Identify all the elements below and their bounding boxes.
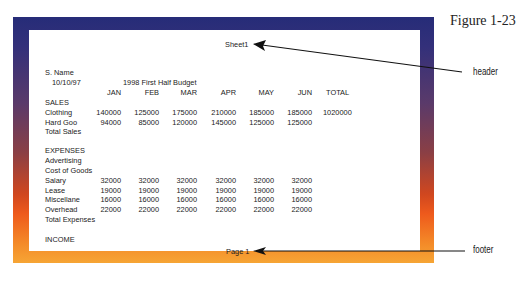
row-label-advertising: Advertising <box>45 156 82 165</box>
column-header-jan: JAN <box>91 88 121 97</box>
header-callout-label: header <box>473 66 498 77</box>
section-sales: SALES <box>45 98 69 107</box>
cell: 175000 <box>162 108 197 117</box>
cell: 19000 <box>239 186 274 195</box>
cell: 22000 <box>124 205 159 214</box>
cell: 19000 <box>201 186 236 195</box>
cell: 120000 <box>162 118 197 127</box>
cell: 32000 <box>86 176 121 185</box>
cell: 210000 <box>201 108 236 117</box>
cell: 94000 <box>86 118 121 127</box>
row-label-hard-goods: Hard Goo <box>45 118 77 127</box>
cell: 185000 <box>277 108 312 117</box>
row-label-cost-of-goods: Cost of Goods <box>45 166 92 175</box>
column-header-mar: MAR <box>167 88 197 97</box>
cell: 16000 <box>239 195 274 204</box>
cell: 22000 <box>239 205 274 214</box>
cell: 16000 <box>86 195 121 204</box>
cell: 16000 <box>201 195 236 204</box>
cell: 125000 <box>277 118 312 127</box>
cell: 32000 <box>201 176 236 185</box>
cell: 32000 <box>124 176 159 185</box>
cell: 185000 <box>239 108 274 117</box>
row-label-clothing: Clothing <box>45 108 72 117</box>
row-label-total-sales: Total Sales <box>45 127 81 136</box>
cell: 22000 <box>277 205 312 214</box>
cell: 16000 <box>162 195 197 204</box>
column-header-total: TOTAL <box>326 88 349 97</box>
report-date: 10/10/97 <box>52 78 81 87</box>
row-label-overhead: Overhead <box>45 205 77 214</box>
row-label-miscellaneous: Miscellane <box>45 195 80 204</box>
cell: 19000 <box>86 186 121 195</box>
cell: 125000 <box>239 118 274 127</box>
header-arrow <box>253 40 462 72</box>
cell: 32000 <box>239 176 274 185</box>
column-header-may: MAY <box>244 88 274 97</box>
author-name: S. Name <box>45 68 74 77</box>
cell: 16000 <box>124 195 159 204</box>
footer-arrow <box>253 247 465 255</box>
row-label-salary: Salary <box>45 176 66 185</box>
cell: 32000 <box>277 176 312 185</box>
cell: 145000 <box>201 118 236 127</box>
cell: 22000 <box>201 205 236 214</box>
row-label-lease: Lease <box>45 186 65 195</box>
cell: 22000 <box>86 205 121 214</box>
column-header-jun: JUN <box>282 88 312 97</box>
cell: 22000 <box>162 205 197 214</box>
cell: 19000 <box>124 186 159 195</box>
section-expenses: EXPENSES <box>45 146 85 155</box>
column-header-feb: FEB <box>129 88 159 97</box>
cell: 140000 <box>86 108 121 117</box>
cell-total: 1020000 <box>323 108 352 117</box>
report-title: 1998 First Half Budget <box>123 78 197 87</box>
cell: 19000 <box>277 186 312 195</box>
cell: 16000 <box>277 195 312 204</box>
cell: 19000 <box>162 186 197 195</box>
cell: 125000 <box>124 108 159 117</box>
cell: 32000 <box>162 176 197 185</box>
section-income: INCOME <box>45 235 75 244</box>
callout-arrows <box>0 0 526 284</box>
column-header-apr: APR <box>206 88 236 97</box>
footer-callout-label: footer <box>473 244 493 255</box>
row-label-total-expenses: Total Expenses <box>45 215 95 224</box>
cell: 85000 <box>124 118 159 127</box>
